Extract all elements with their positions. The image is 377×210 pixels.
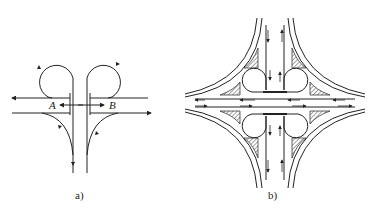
- figure-b: [185, 18, 365, 188]
- a-left-ramp: [42, 113, 73, 155]
- b-loop-se: [284, 114, 308, 138]
- caption-figure-b: b): [268, 189, 277, 201]
- b-loop-sw: [242, 114, 266, 138]
- b-loop-nw: [242, 68, 266, 92]
- a-left-loop: [40, 65, 73, 100]
- a-right-loop: [87, 65, 120, 100]
- a-right-ramp: [87, 113, 118, 155]
- point-label-b: B: [109, 99, 116, 111]
- b-hatched-islands: [220, 48, 330, 158]
- caption-figure-a: a): [75, 189, 84, 201]
- b-loop-ne: [284, 68, 308, 92]
- figure-a: [12, 62, 151, 173]
- point-label-a: A: [49, 99, 56, 111]
- interchange-diagrams: [0, 0, 377, 210]
